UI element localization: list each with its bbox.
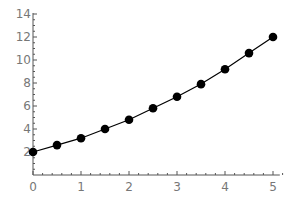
y-tick-label: 8: [23, 76, 31, 90]
y-tick-label: 14: [16, 7, 31, 21]
x-tick-label: 4: [221, 180, 229, 194]
axes: [33, 13, 280, 175]
line-chart: 012345 2468101214: [0, 0, 300, 203]
x-tick-label: 1: [77, 180, 85, 194]
y-tick-label: 12: [16, 30, 31, 44]
x-tick-label: 2: [125, 180, 133, 194]
series-line: [33, 37, 273, 152]
data-point-marker: [53, 141, 62, 150]
y-tick-label: 4: [23, 122, 31, 136]
data-point-marker: [221, 65, 230, 74]
x-tick-labels: 012345: [29, 180, 277, 194]
data-point-marker: [149, 104, 158, 113]
data-point-marker: [245, 49, 254, 58]
data-point-marker: [101, 125, 110, 134]
data-point-marker: [197, 80, 206, 89]
x-tick-label: 5: [269, 180, 277, 194]
data-point-marker: [125, 116, 134, 125]
data-series: [29, 33, 278, 157]
y-tick-label: 6: [23, 99, 31, 113]
y-tick-label: 10: [16, 53, 31, 67]
data-point-marker: [269, 33, 278, 42]
x-tick-label: 3: [173, 180, 181, 194]
data-point-marker: [29, 148, 38, 157]
x-tick-label: 0: [29, 180, 37, 194]
data-point-marker: [173, 93, 182, 102]
tick-marks: [33, 14, 283, 175]
data-point-marker: [77, 134, 86, 143]
y-tick-labels: 2468101214: [16, 7, 31, 159]
